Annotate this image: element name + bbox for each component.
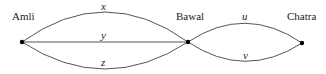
node-label-bawal: Bawal xyxy=(176,11,204,22)
route-diagram xyxy=(0,0,326,74)
node-chatra-dot xyxy=(300,41,304,45)
edge-label-v: v xyxy=(243,50,248,61)
edge-label-u: u xyxy=(242,11,248,22)
edge-label-z: z xyxy=(101,57,105,68)
node-bawal-dot xyxy=(186,40,190,44)
node-label-chatra: Chatra xyxy=(287,11,316,22)
edge-label-x: x xyxy=(101,1,106,12)
edge-u xyxy=(188,23,302,43)
node-label-amli: Amli xyxy=(12,11,35,22)
node-amli-dot xyxy=(20,40,24,44)
edge-label-y: y xyxy=(101,30,106,41)
